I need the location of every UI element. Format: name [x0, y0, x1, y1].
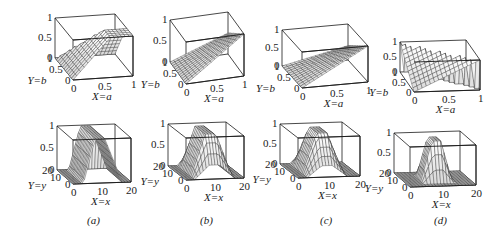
y-axis-label: Y=b	[369, 87, 388, 98]
z-tick-label: 1	[392, 36, 398, 47]
y-tick-label: 10	[387, 175, 398, 186]
y-tick-label: 0	[178, 79, 184, 90]
z-tick-label: 1	[160, 118, 166, 129]
x-tick-label: 0	[71, 83, 77, 94]
y-tick-label: 0	[65, 179, 71, 190]
y-tick-label: 0.5	[392, 77, 406, 88]
x-tick-label: 1	[478, 93, 484, 104]
x-tick-label: 20	[471, 188, 482, 199]
x-axis-label: X=x	[204, 192, 223, 203]
panel-caption-d: (d)	[434, 214, 447, 226]
x-tick-label: 20	[239, 181, 250, 192]
y-axis-label: Y=y	[140, 176, 158, 187]
y-tick-label: 0	[65, 75, 71, 86]
z-tick-label: 1	[49, 120, 55, 131]
y-axis-label: Y=b	[256, 83, 275, 94]
y-tick-label: 0.5	[163, 68, 177, 79]
surface-plot-d-bottom	[394, 131, 476, 187]
x-tick-label: 0	[412, 95, 418, 106]
x-tick-label: 0	[300, 91, 306, 102]
y-tick-label: 0	[290, 173, 296, 184]
y-axis-label: Y=y	[365, 183, 383, 194]
surface-plot-a-top	[55, 14, 133, 80]
y-tick-label: 10	[162, 168, 173, 179]
z-tick-label: 0.5	[40, 142, 54, 153]
surface-plot-d-top	[400, 40, 480, 92]
x-axis-label: X=x	[432, 199, 451, 210]
surface-mesh	[168, 126, 244, 180]
z-tick-label: 0.5	[38, 32, 52, 43]
x-axis-label: X=a	[436, 104, 456, 115]
panel-caption-b: (b)	[200, 214, 213, 226]
y-tick-label: 0	[294, 83, 300, 94]
z-tick-label: 0.5	[265, 42, 279, 53]
y-tick-label: 0.5	[277, 72, 291, 83]
z-tick-label: 0.5	[153, 35, 167, 46]
x-axis-label: X=a	[204, 93, 224, 104]
z-tick-label: 1	[47, 12, 53, 23]
x-tick-label: 0	[184, 183, 190, 194]
y-tick-label: 10	[274, 166, 285, 177]
surface-mesh	[57, 126, 131, 184]
plot-canvas	[0, 0, 500, 238]
z-tick-label: 1	[274, 24, 280, 35]
x-tick-label: 0	[184, 87, 190, 98]
figure-3d-surfaces: 10.5010.5000.51Y=bX=a10.502010001020Y=yX…	[0, 0, 500, 238]
surface-mesh	[280, 127, 360, 178]
z-tick-label: 1	[386, 127, 392, 138]
x-axis-label: X=x	[318, 190, 337, 201]
z-tick-label: 0.5	[263, 138, 277, 149]
y-tick-label: 0	[402, 182, 408, 193]
z-tick-label: 1	[162, 14, 168, 25]
surface-mesh	[400, 42, 480, 92]
y-axis-label: Y=b	[27, 75, 46, 86]
x-tick-label: 0	[408, 190, 414, 201]
surface-plot-b-top	[170, 12, 244, 84]
y-axis-label: Y=y	[28, 180, 46, 191]
z-tick-label: 0.5	[383, 51, 397, 62]
x-tick-label: 0	[71, 187, 77, 198]
x-axis-label: X=x	[91, 196, 110, 207]
panel-caption-a: (a)	[87, 214, 100, 226]
surface-plot-c-top	[282, 24, 368, 88]
y-axis-label: Y=b	[141, 79, 160, 90]
surface-mesh	[394, 137, 476, 187]
x-axis-label: X=a	[92, 91, 112, 102]
z-tick-label: 0.5	[151, 139, 165, 150]
y-tick-label: 10	[50, 172, 61, 183]
x-axis-label: X=a	[324, 98, 344, 109]
y-tick-label: 0	[406, 87, 412, 98]
x-tick-label: 20	[126, 185, 137, 196]
x-tick-label: 0	[296, 181, 302, 192]
z-tick-label: 1	[272, 118, 278, 129]
x-tick-label: 1	[242, 79, 248, 90]
z-tick-label: 0.5	[377, 147, 391, 158]
surface-mesh	[170, 33, 244, 84]
y-axis-label: Y=y	[252, 174, 270, 185]
y-tick-label: 0.5	[49, 64, 63, 75]
y-tick-label: 0	[178, 175, 184, 186]
surface-plot-b-bottom	[168, 122, 244, 180]
panel-caption-c: (c)	[320, 214, 332, 226]
surface-plot-c-bottom	[280, 122, 360, 178]
surface-plot-a-bottom	[57, 124, 131, 184]
x-tick-label: 1	[131, 79, 137, 90]
